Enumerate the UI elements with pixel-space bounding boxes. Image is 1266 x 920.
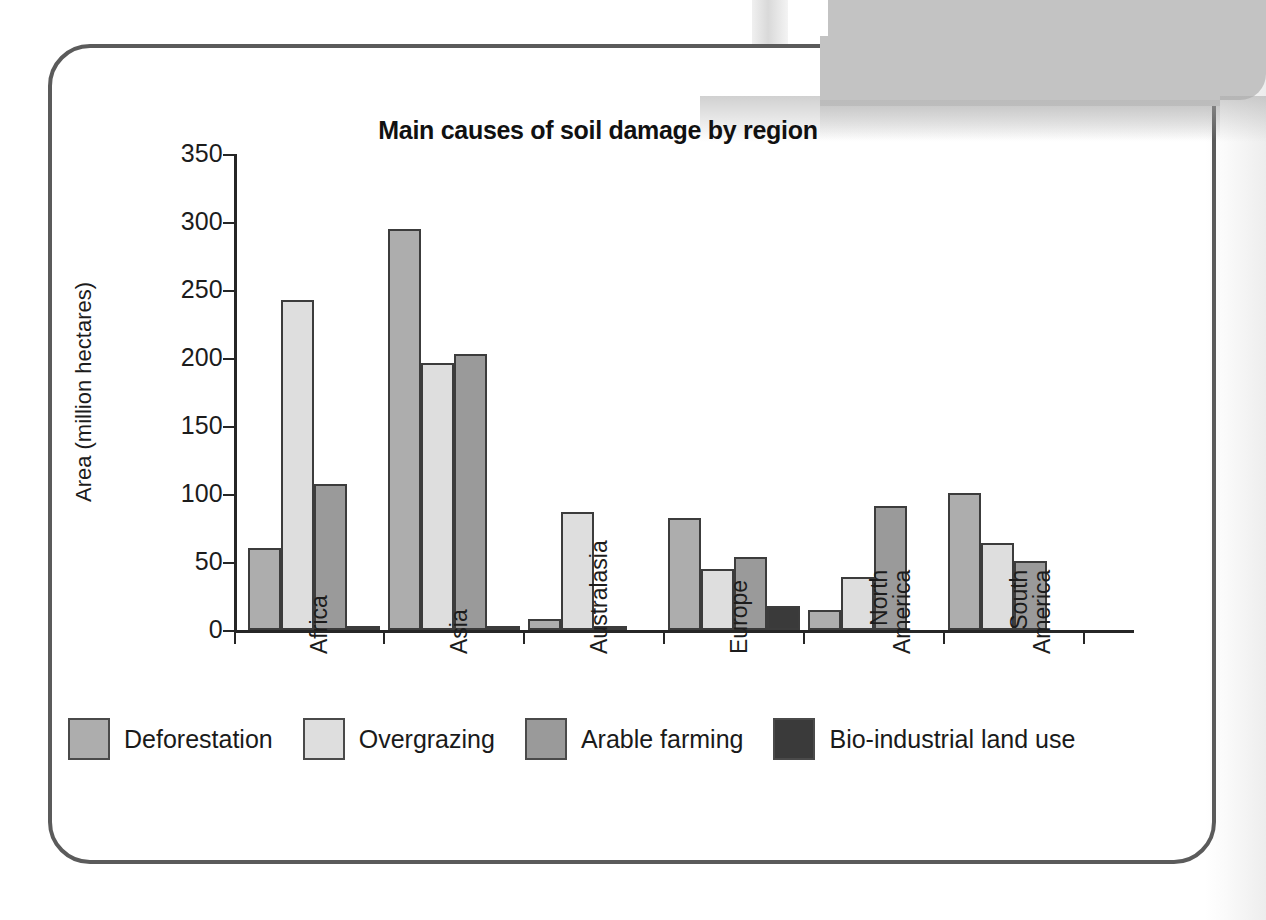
y-axis-line	[234, 154, 237, 630]
x-axis-tick	[803, 631, 805, 644]
bar	[487, 626, 520, 630]
chart-legend: DeforestationOvergrazingArable farmingBi…	[68, 718, 1105, 760]
y-axis-tick-label: 150	[181, 411, 223, 440]
y-axis-tick-label: 100	[181, 479, 223, 508]
legend-item[interactable]: Arable farming	[525, 718, 744, 760]
x-axis-tick	[523, 631, 525, 644]
bar	[421, 363, 454, 630]
category-label-line: America	[889, 570, 915, 654]
category-label-line: Europe	[726, 580, 752, 654]
legend-item[interactable]: Deforestation	[68, 718, 273, 760]
y-axis-tick: 50	[223, 562, 234, 564]
bar	[248, 548, 281, 630]
x-axis-category-label: Africa	[308, 595, 331, 654]
bar	[528, 619, 561, 630]
x-axis-tick	[943, 631, 945, 644]
bar	[668, 518, 701, 630]
y-axis-tick-label: 200	[181, 343, 223, 372]
x-axis-category-label: SouthAmerica	[1008, 570, 1055, 654]
category-label-line: Australasia	[586, 540, 612, 654]
y-axis-tick-label: 0	[209, 615, 223, 644]
category-label-line: Asia	[446, 609, 472, 654]
legend-item-label: Deforestation	[124, 725, 273, 754]
legend-item[interactable]: Bio-industrial land use	[773, 718, 1075, 760]
bar	[388, 229, 421, 630]
legend-color-swatch	[525, 718, 567, 760]
x-axis-tick	[1083, 631, 1085, 644]
legend-color-swatch	[68, 718, 110, 760]
bar	[454, 354, 487, 630]
legend-color-swatch	[303, 718, 345, 760]
y-axis-tick-label: 350	[181, 139, 223, 168]
y-axis-tick-label: 300	[181, 207, 223, 236]
bar	[948, 493, 981, 630]
legend-item-label: Arable farming	[581, 725, 744, 754]
x-axis-category-label: Europe	[728, 580, 751, 654]
x-axis-category-label: NorthAmerica	[868, 570, 915, 654]
category-label-line: North	[866, 570, 892, 626]
x-axis-category-label: Australasia	[588, 540, 611, 654]
legend-item-label: Overgrazing	[359, 725, 495, 754]
y-axis-tick: 100	[223, 494, 234, 496]
y-axis-tick: 0	[223, 630, 234, 632]
bar	[347, 626, 380, 630]
y-axis-title: Area (million hectares)	[71, 282, 97, 502]
x-axis-line	[234, 630, 1134, 633]
plot-area: Area (million hectares) 0501001502002503…	[234, 154, 1134, 630]
page-gutter-streak	[752, 0, 788, 46]
y-axis-tick: 250	[223, 290, 234, 292]
x-axis-tick	[383, 631, 385, 644]
y-axis-tick: 300	[223, 222, 234, 224]
category-label-line: America	[1029, 570, 1055, 654]
x-axis-tick	[663, 631, 665, 644]
bar	[808, 610, 841, 630]
bar	[767, 606, 800, 630]
y-axis-tick: 200	[223, 358, 234, 360]
legend-item-label: Bio-industrial land use	[829, 725, 1075, 754]
category-label-line: Africa	[306, 595, 332, 654]
legend-item[interactable]: Overgrazing	[303, 718, 495, 760]
y-axis-tick: 350	[223, 154, 234, 156]
y-axis-tick: 150	[223, 426, 234, 428]
legend-color-swatch	[773, 718, 815, 760]
y-axis-tick-label: 250	[181, 275, 223, 304]
y-axis-tick-label: 50	[195, 547, 223, 576]
bar	[281, 300, 314, 630]
category-label-line: South	[1006, 570, 1032, 630]
x-axis-category-label: Asia	[448, 609, 471, 654]
x-axis-tick	[234, 631, 236, 644]
